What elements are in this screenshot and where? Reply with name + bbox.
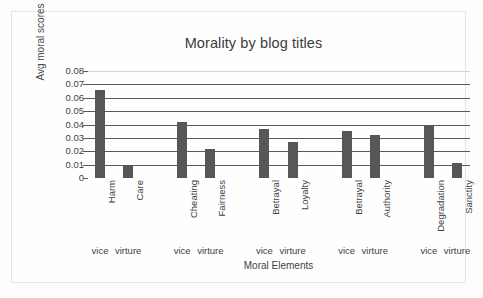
category-label: Authority	[381, 180, 393, 240]
y-tick-label: 0.01	[52, 160, 84, 170]
bar	[95, 90, 105, 178]
category-label: Care	[134, 180, 146, 240]
y-tick-label: 0.06	[52, 93, 84, 103]
bar	[288, 142, 298, 178]
category-label: Harm	[106, 180, 118, 240]
group-label: virture	[362, 245, 388, 256]
gridline	[87, 71, 470, 72]
y-tick-mark	[83, 165, 88, 166]
category-label: Cheating	[188, 180, 200, 240]
group-label: vice	[420, 245, 437, 256]
y-axis-tick-labels: 0.080.070.060.050.040.030.020.010	[52, 66, 84, 178]
category-label: Betrayal	[270, 180, 282, 240]
y-tick-label: 0.02	[52, 146, 84, 156]
y-tick-label: 0.07	[52, 79, 84, 89]
bar	[123, 165, 133, 178]
screenshot-page: Morality by blog titles Avg moral scores…	[0, 0, 483, 298]
gridline	[87, 125, 470, 126]
gridline	[87, 84, 470, 85]
y-tick-mark	[83, 111, 88, 112]
group-label: virture	[197, 245, 223, 256]
bar	[205, 149, 215, 178]
bar	[259, 129, 269, 178]
y-tick-mark	[83, 151, 88, 152]
x-axis-group-labels: vicevirturevicevirturevicevirturevicevir…	[87, 245, 470, 259]
x-axis-category-labels: HarmCareCheatingFairnessBetrayalLoyaltyB…	[87, 180, 470, 240]
gridline	[87, 151, 470, 152]
y-tick-label: 0.04	[52, 120, 84, 130]
bar	[342, 131, 352, 178]
chart-container: Morality by blog titles Avg moral scores…	[11, 11, 466, 283]
y-tick-label: 0.08	[52, 66, 84, 76]
y-tick-label: 0.05	[52, 106, 84, 116]
category-label: Fairness	[216, 180, 228, 240]
group-label: virture	[444, 245, 470, 256]
group-label: virture	[279, 245, 305, 256]
y-tick-label: 0.03	[52, 133, 84, 143]
y-tick-mark	[83, 84, 88, 85]
category-label: Loyalty	[299, 180, 311, 240]
gridline	[87, 98, 470, 99]
bar	[452, 163, 462, 178]
gridline	[87, 165, 470, 166]
x-axis-title: Moral Elements	[87, 260, 470, 271]
category-label: Sanctity	[463, 180, 475, 240]
y-axis-title: Avg moral scores	[35, 0, 49, 97]
bar	[177, 122, 187, 178]
plot-area	[87, 71, 470, 178]
group-label: vice	[174, 245, 191, 256]
y-tick-mark	[83, 178, 88, 179]
chart-title: Morality by blog titles	[12, 35, 483, 51]
category-label: Betrayal	[353, 180, 365, 240]
y-tick-mark	[83, 98, 88, 99]
group-label: virture	[115, 245, 141, 256]
group-label: vice	[338, 245, 355, 256]
y-tick-mark	[83, 71, 88, 72]
group-label: vice	[256, 245, 273, 256]
bar	[424, 125, 434, 179]
gridline	[87, 111, 470, 112]
group-label: vice	[92, 245, 109, 256]
gridline	[87, 138, 470, 139]
bar	[370, 135, 380, 178]
category-label: Degradation	[435, 180, 447, 240]
y-tick-mark	[83, 138, 88, 139]
y-tick-mark	[83, 125, 88, 126]
y-tick-label: 0	[52, 173, 84, 183]
